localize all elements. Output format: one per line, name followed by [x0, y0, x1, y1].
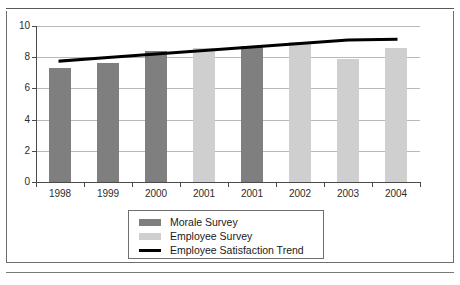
x-tick-mark [372, 182, 373, 187]
legend-item-label: Employee Satisfaction Trend [170, 244, 304, 256]
legend-item-label: Employee Survey [170, 230, 252, 242]
legend-item[interactable]: Morale Survey [129, 215, 323, 229]
x-tick-mark [324, 182, 325, 187]
frame-top-rule [6, 8, 454, 9]
x-tick-label: 2004 [372, 188, 420, 199]
y-axis-line [36, 26, 37, 182]
x-tick-label: 1998 [36, 188, 84, 199]
x-tick-label: 2001 [180, 188, 228, 199]
y-tick-mark [32, 151, 37, 152]
x-tick-mark [276, 182, 277, 187]
y-tick-mark [32, 57, 37, 58]
x-tick-mark [420, 182, 421, 187]
employee-satisfaction-trend-line [60, 39, 396, 61]
chart-legend: Morale SurveyEmployee SurveyEmployee Sat… [128, 210, 324, 259]
x-tick-label: 2001 [228, 188, 276, 199]
trend-line-svg [36, 26, 420, 182]
chart-figure: 0246810 19981999200020012001200220032004… [0, 0, 460, 285]
x-tick-mark [132, 182, 133, 187]
x-tick-label: 1999 [84, 188, 132, 199]
x-tick-mark [180, 182, 181, 187]
y-tick-label: 6 [2, 83, 30, 93]
y-tick-label: 8 [2, 52, 30, 62]
x-tick-mark [84, 182, 85, 187]
y-tick-label: 10 [2, 21, 30, 31]
y-tick-mark [32, 88, 37, 89]
legend-item-label: Morale Survey [170, 216, 238, 228]
x-tick-label: 2002 [276, 188, 324, 199]
legend-color-swatch [139, 219, 161, 226]
y-tick-mark [32, 26, 37, 27]
legend-item[interactable]: Employee Satisfaction Trend [129, 243, 323, 257]
x-tick-label: 2003 [324, 188, 372, 199]
legend-item[interactable]: Employee Survey [129, 229, 323, 243]
y-tick-label: 0 [2, 177, 30, 187]
x-tick-label: 2000 [132, 188, 180, 199]
y-tick-mark [32, 120, 37, 121]
legend-color-swatch [139, 233, 161, 240]
y-tick-label: 2 [2, 146, 30, 156]
legend-line-swatch [139, 249, 161, 252]
y-tick-label: 4 [2, 115, 30, 125]
plot-area: 0246810 19981999200020012001200220032004 [36, 26, 420, 182]
x-tick-mark [36, 182, 37, 187]
frame-bottom-rule [6, 272, 454, 273]
x-tick-mark [228, 182, 229, 187]
